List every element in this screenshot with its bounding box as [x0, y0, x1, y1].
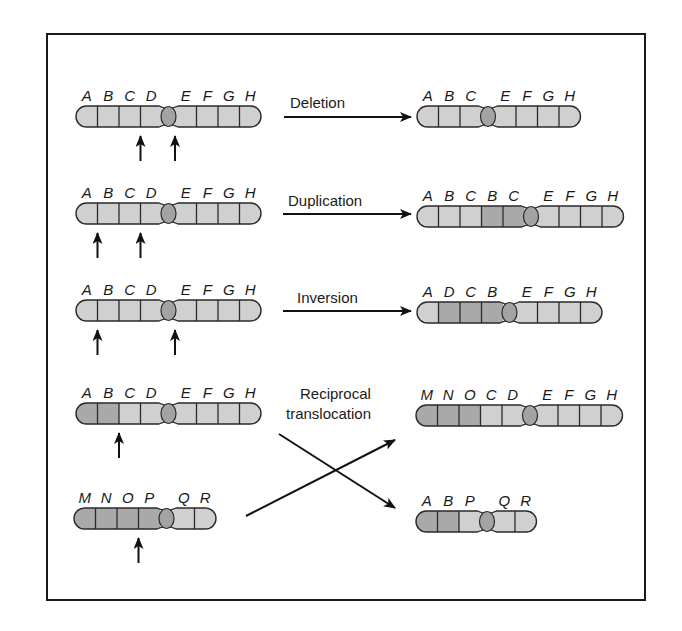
centromere [481, 107, 496, 127]
centromere [161, 301, 176, 321]
gene-segment-p [139, 506, 161, 531]
gene-label: D [507, 386, 518, 403]
gene-label: F [565, 187, 575, 204]
gene-segment-f [559, 204, 581, 229]
gene-label: E [181, 87, 192, 104]
gene-segment-m [416, 403, 438, 428]
gene-segment-e [538, 204, 560, 229]
translocation-original-2: MNOPQR [74, 489, 216, 563]
arrow-translocation-down [279, 434, 395, 508]
chromosome-rearrangement-diagram: Deletion Duplication Inversion Reciproca… [0, 0, 682, 631]
gene-segment-d [439, 300, 461, 325]
gene-segment-b [439, 104, 461, 129]
centromere [161, 404, 176, 424]
gene-label: G [223, 184, 235, 201]
gene-label: C [124, 184, 135, 201]
gene-label: B [444, 187, 454, 204]
centromere [161, 204, 176, 224]
gene-segment-h [601, 403, 623, 428]
gene-label: B [103, 281, 113, 298]
gene-segment-g [559, 300, 581, 325]
gene-segment-a [417, 204, 439, 229]
gene-label: C [508, 187, 519, 204]
gene-segment-r [515, 509, 537, 534]
gene-segment-p [459, 509, 481, 534]
gene-label: B [443, 492, 453, 509]
deletion-original: ABCDEFGH [76, 87, 261, 161]
gene-segment-n [96, 506, 118, 531]
gene-segment-o [117, 506, 139, 531]
gene-segment-h [559, 104, 581, 129]
gene-label: A [422, 283, 433, 300]
gene-segment-a [417, 300, 439, 325]
gene-label: G [542, 87, 554, 104]
label-reciprocal: Reciprocal [300, 385, 371, 402]
gene-label: D [444, 283, 455, 300]
gene-label: E [181, 184, 192, 201]
gene-segment-b [439, 204, 461, 229]
gene-segment-b [98, 104, 120, 129]
gene-label: F [203, 184, 213, 201]
figure: Deletion Duplication Inversion Reciproca… [0, 0, 682, 631]
gene-segment-b [482, 204, 504, 229]
duplication-original: ABCDEFGH [76, 184, 261, 258]
arrow-translocation-up [246, 440, 395, 516]
gene-segment-a [76, 201, 98, 226]
gene-segment-b [98, 298, 120, 323]
gene-label: C [465, 187, 476, 204]
gene-segment-q [173, 506, 195, 531]
gene-label: C [124, 87, 135, 104]
gene-label: H [606, 386, 617, 403]
gene-label: B [103, 87, 113, 104]
gene-label: A [422, 187, 433, 204]
gene-segment-g [538, 104, 560, 129]
gene-segment-b [438, 509, 460, 534]
gene-label: H [586, 283, 597, 300]
gene-segment-e [175, 104, 197, 129]
chromosomes: ABCDEFGHABCEFGHABCDEFGHABCBCEFGHABCDEFGH… [74, 87, 624, 563]
gene-segment-c [503, 204, 525, 229]
gene-label: D [146, 281, 157, 298]
gene-label: P [465, 492, 475, 509]
gene-segment-g [218, 298, 240, 323]
gene-label: C [124, 281, 135, 298]
gene-segment-n [438, 403, 460, 428]
gene-label: M [79, 489, 92, 506]
gene-segment-c [119, 201, 141, 226]
gene-label: R [200, 489, 211, 506]
gene-label: A [421, 492, 432, 509]
gene-label: E [522, 283, 533, 300]
label-duplication: Duplication [288, 192, 362, 209]
gene-label: Q [498, 492, 510, 509]
gene-label: C [486, 386, 497, 403]
centromere [524, 207, 539, 227]
gene-label: E [181, 384, 192, 401]
gene-segment-b [98, 201, 120, 226]
gene-label: A [422, 87, 433, 104]
gene-label: F [544, 283, 554, 300]
gene-segment-g [580, 403, 602, 428]
gene-label: A [81, 281, 92, 298]
gene-segment-e [175, 201, 197, 226]
gene-label: G [584, 386, 596, 403]
gene-segment-a [76, 104, 98, 129]
gene-label: D [146, 87, 157, 104]
gene-label: C [124, 384, 135, 401]
deletion-result: ABCEFGH [417, 87, 581, 129]
centromere [480, 512, 495, 532]
gene-label: F [564, 386, 574, 403]
gene-label: G [223, 281, 235, 298]
gene-segment-e [175, 401, 197, 426]
gene-segment-f [197, 401, 219, 426]
gene-segment-c [119, 298, 141, 323]
gene-segment-g [218, 201, 240, 226]
inversion-original: ABCDEFGH [76, 281, 261, 355]
gene-label: N [101, 489, 112, 506]
gene-label: A [81, 384, 92, 401]
label-inversion: Inversion [297, 289, 358, 306]
inversion-result: ADCBEFGH [417, 283, 602, 325]
gene-label: O [464, 386, 476, 403]
gene-label: N [443, 386, 454, 403]
duplication-result: ABCBCEFGH [417, 187, 624, 229]
centromere [523, 406, 538, 426]
